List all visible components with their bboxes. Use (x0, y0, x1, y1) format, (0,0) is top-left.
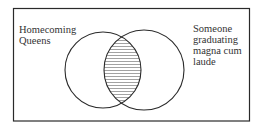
left-set-label: Homecoming Queens (19, 24, 76, 46)
right-set-label: Someone graduating magna cum laude (193, 23, 242, 67)
